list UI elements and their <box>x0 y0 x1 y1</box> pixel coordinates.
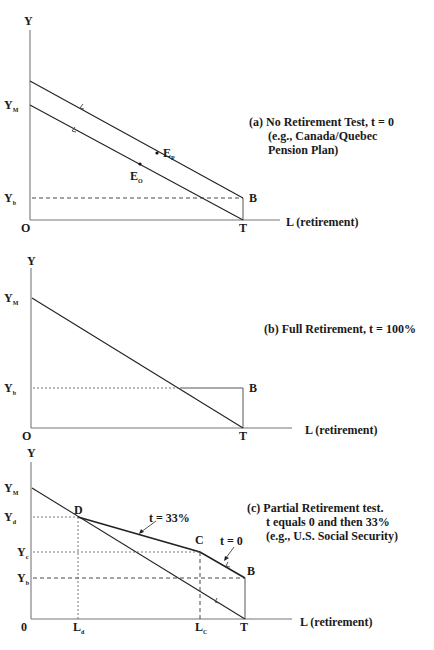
panel-b-x-axis-label: L (retirement) <box>305 423 378 437</box>
panel-c-t33-arrowhead-icon <box>139 529 144 534</box>
panel-c-t33-label: t = 33% <box>149 511 190 525</box>
panel-c-c-label: C <box>195 533 204 547</box>
panel-c-caption-line2: t equals 0 and then 33% <box>266 515 390 529</box>
panel-b-t-label: T <box>239 429 247 443</box>
panel-c-t-label: T <box>240 620 248 634</box>
panel-a-arrow-icon <box>80 104 84 109</box>
panel-c-b-label: B <box>247 564 255 578</box>
panel-c-x-axis-label: L (retirement) <box>300 615 373 629</box>
panel-c-yb-label: Yb <box>17 571 30 586</box>
panel-c-t0-arrowhead-icon <box>224 556 229 561</box>
panel-b-b-label: B <box>249 381 257 395</box>
panel-c-y-axis-label: Y <box>27 446 36 460</box>
panel-c-yc-label: Yc <box>17 545 29 560</box>
panel-b-origin-label: O <box>22 429 31 443</box>
panel-a-eo-label: EO <box>130 169 143 184</box>
panel-a: Y EP EO YM Yb O T B L (retirement) (a) N… <box>4 14 394 235</box>
panel-c-caption-line3: (e.g., U.S. Social Security) <box>266 529 398 543</box>
panel-c-origin-label: 0 <box>21 620 27 634</box>
panel-c-earnings-line <box>32 488 245 619</box>
panel-a-x-axis-label: L (retirement) <box>286 215 359 229</box>
panel-c-t0-label: t = 0 <box>220 534 243 548</box>
panel-a-eo-point <box>138 162 141 165</box>
panel-c-ld-label: Ld <box>73 620 85 635</box>
panel-b-yb-label: Yb <box>4 381 17 396</box>
panel-a-y-axis-label: Y <box>24 14 33 28</box>
panel-a-ep-point <box>155 151 158 154</box>
panel-c: Y YM Yd Yc Yb 0 Ld LC T D C B t = 33% t … <box>4 446 398 635</box>
panel-a-ep-label: EP <box>163 146 175 161</box>
panel-c-ym-label: YM <box>4 481 19 496</box>
panel-a-yb-label: Yb <box>4 191 17 206</box>
panel-c-d-label: D <box>74 503 83 517</box>
panel-a-ym-label: YM <box>4 98 19 113</box>
panel-c-lc-label: LC <box>195 620 207 635</box>
panel-c-caption-line1: (c) Partial Retirement test. <box>247 501 383 515</box>
panel-b-caption-line1: (b) Full Retirement, t = 100% <box>264 322 416 336</box>
panel-a-caption-line1: (a) No Retirement Test, t = 0 <box>249 115 394 129</box>
panel-c-arrow-icon <box>226 562 230 567</box>
panel-b: Y YM Yb O T B L (retirement) (b) Full Re… <box>4 254 416 443</box>
panel-c-yd-label: Yd <box>4 510 17 525</box>
panel-a-b-label: B <box>249 191 257 205</box>
panel-c-t0-pointer <box>226 547 234 558</box>
panel-b-ym-label: YM <box>4 291 19 306</box>
panel-a-t-label: T <box>239 221 247 235</box>
panel-a-caption-line3: Pension Plan) <box>268 143 338 157</box>
panel-a-origin-label: O <box>21 221 30 235</box>
panel-a-caption-line2: (e.g., Canada/Quebec <box>268 129 378 143</box>
panel-b-y-axis-label: Y <box>27 254 36 268</box>
panel-b-budget-line <box>32 298 243 428</box>
budget-constraint-diagrams: Y EP EO YM Yb O T B L (retirement) (a) N… <box>0 0 434 650</box>
panel-a-budget-line-earnings <box>30 105 243 220</box>
